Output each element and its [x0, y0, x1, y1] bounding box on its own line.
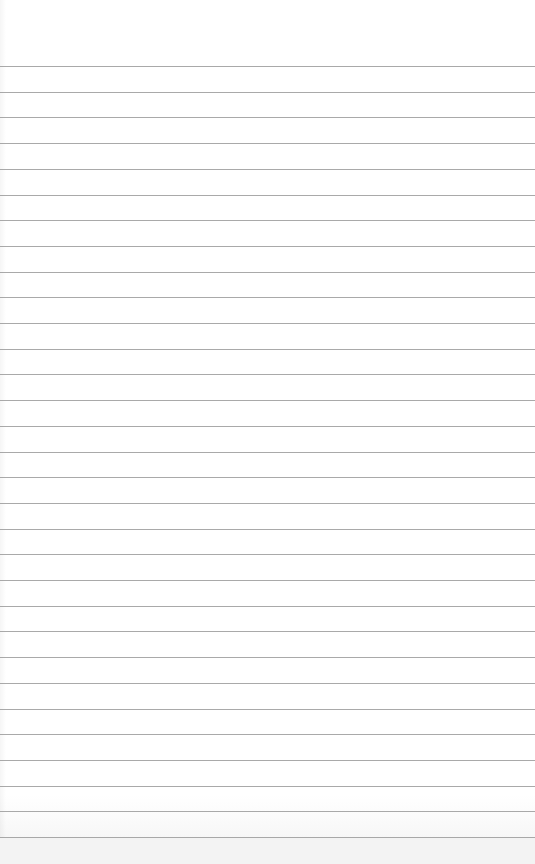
ruled-line	[0, 811, 535, 812]
ruled-line	[0, 400, 535, 401]
ruled-line	[0, 66, 535, 67]
ruled-line	[0, 323, 535, 324]
ruled-line	[0, 117, 535, 118]
ruled-line	[0, 374, 535, 375]
ruled-line	[0, 297, 535, 298]
ruled-line	[0, 657, 535, 658]
ruled-line	[0, 631, 535, 632]
ruled-line	[0, 220, 535, 221]
ruled-line	[0, 786, 535, 787]
ruled-line	[0, 580, 535, 581]
ruled-line	[0, 529, 535, 530]
ruled-line	[0, 452, 535, 453]
ruled-line	[0, 143, 535, 144]
bottom-margin-band	[0, 838, 535, 864]
ruled-line	[0, 709, 535, 710]
ruled-line	[0, 760, 535, 761]
ruled-line	[0, 349, 535, 350]
ruled-line	[0, 606, 535, 607]
lined-paper-sheet	[0, 0, 535, 864]
ruled-line	[0, 195, 535, 196]
ruled-line	[0, 734, 535, 735]
ruled-line	[0, 246, 535, 247]
ruled-line	[0, 477, 535, 478]
ruled-line	[0, 683, 535, 684]
ruled-line	[0, 503, 535, 504]
ruled-line	[0, 272, 535, 273]
ruled-line	[0, 169, 535, 170]
ruled-line	[0, 426, 535, 427]
ruled-line	[0, 92, 535, 93]
ruled-line	[0, 554, 535, 555]
